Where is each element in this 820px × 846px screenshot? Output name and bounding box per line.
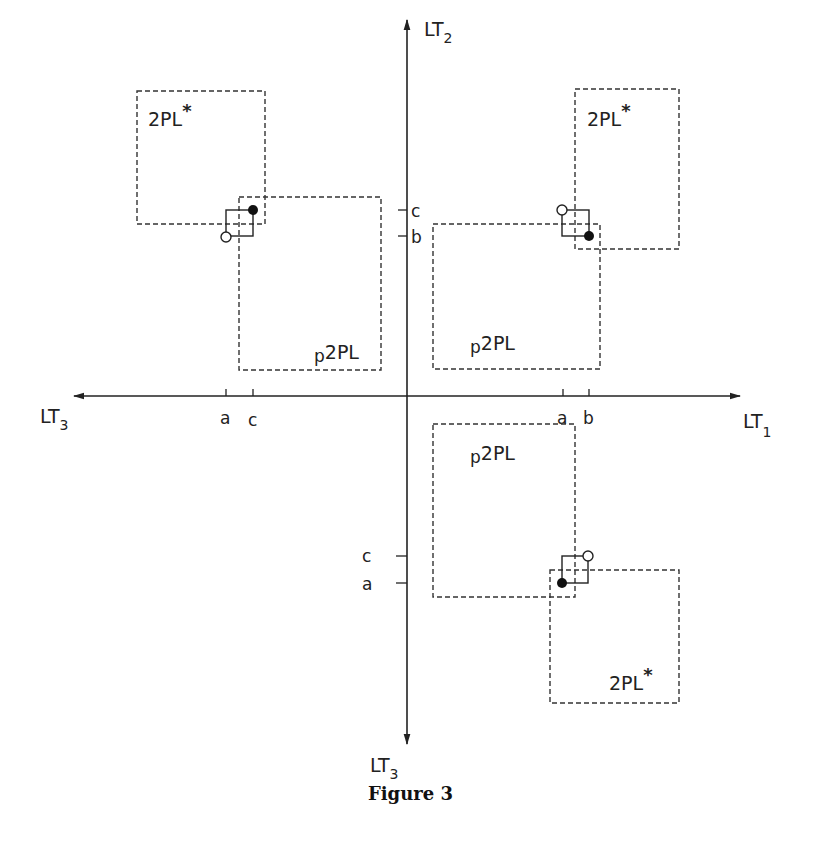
- label-p2pl-lower-right: p2PL: [470, 442, 515, 467]
- axis-label-lt1: LT1: [743, 410, 772, 440]
- axis-label-lt3-left: LT3: [40, 405, 69, 433]
- tick-label-right-a: a: [557, 408, 567, 428]
- axis-label-lt2: LT2: [424, 18, 453, 46]
- tick-label-upper-b: b: [411, 227, 422, 247]
- tick-label-upper-c: c: [411, 201, 420, 221]
- axis-label-lt3-bottom: LT3: [370, 754, 399, 782]
- tick-label-left-a: a: [220, 408, 230, 428]
- label-2pl-star-upper-left: 2PL*: [148, 100, 192, 130]
- figure-caption: Figure 3: [368, 783, 453, 804]
- filled-dot-lower-right: [557, 578, 567, 588]
- figure-canvas: LT2 LT1 LT3 LT3 a c a b c b c a 2PL* p2P…: [0, 0, 820, 846]
- tick-label-lower-a: a: [362, 574, 372, 594]
- open-dot-upper-left: [221, 232, 231, 242]
- open-dot-upper-right: [557, 205, 567, 215]
- filled-dot-upper-left: [248, 205, 258, 215]
- tick-label-lower-c: c: [362, 546, 371, 566]
- label-2pl-star-upper-right: 2PL*: [587, 100, 631, 130]
- label-p2pl-upper-left: p2PL: [314, 341, 359, 366]
- tick-label-right-b: b: [583, 408, 594, 428]
- label-2pl-star-lower-right: 2PL*: [609, 664, 653, 694]
- open-dot-lower-right: [583, 551, 593, 561]
- box-p2pl-upper-left: [239, 197, 381, 370]
- label-p2pl-upper-right: p2PL: [470, 332, 515, 357]
- filled-dot-upper-right: [584, 231, 594, 241]
- tick-label-left-c: c: [248, 410, 257, 430]
